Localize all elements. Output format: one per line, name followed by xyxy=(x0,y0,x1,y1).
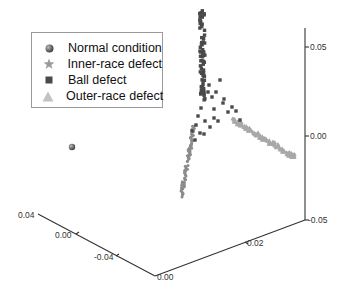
data-point xyxy=(202,68,205,71)
x-axis xyxy=(38,214,155,276)
data-point xyxy=(234,109,237,112)
data-point xyxy=(199,70,202,73)
data-point xyxy=(202,63,205,66)
data-point xyxy=(201,52,204,55)
legend-item-normal: Normal condition xyxy=(42,40,162,56)
data-point xyxy=(200,22,203,25)
data-point xyxy=(186,160,189,163)
data-point xyxy=(230,105,233,108)
data-point xyxy=(183,176,186,179)
data-point xyxy=(201,80,204,83)
origin-tick: 0.00 xyxy=(157,272,174,282)
data-point xyxy=(200,41,203,44)
data-point xyxy=(181,192,184,195)
data-point xyxy=(201,83,204,86)
x-tick-0.04: 0.04 xyxy=(18,210,35,220)
z-tick-neg0.05: -0.05 xyxy=(308,215,328,225)
series-inner-race-defect xyxy=(180,125,196,199)
data-point xyxy=(218,78,221,81)
data-point xyxy=(212,107,215,110)
y-axis xyxy=(155,220,305,276)
data-point xyxy=(202,132,205,135)
data-point xyxy=(183,185,186,188)
data-point xyxy=(199,106,202,109)
data-point xyxy=(203,119,206,122)
series-outer-race-defect xyxy=(230,117,296,160)
legend-label: Ball defect xyxy=(68,73,126,87)
data-point xyxy=(238,118,241,121)
data-point xyxy=(189,136,192,139)
legend-item-outer-race: Outer-race defect xyxy=(42,88,162,104)
x-tick-0.00: 0.00 xyxy=(55,230,72,240)
legend-label: Inner-race defect xyxy=(68,57,163,71)
triangle-icon xyxy=(42,89,54,103)
star-icon xyxy=(42,57,56,71)
legend-label: Outer-race defect xyxy=(66,89,163,103)
data-point xyxy=(208,125,211,128)
data-point xyxy=(188,151,191,154)
series-normal-condition xyxy=(69,144,75,150)
data-point xyxy=(190,142,193,145)
data-point xyxy=(198,12,201,15)
data-point xyxy=(199,92,202,95)
y-tick-0.02: 0.02 xyxy=(247,238,264,248)
data-point xyxy=(203,75,206,78)
data-point xyxy=(184,165,187,168)
data-point xyxy=(206,90,209,93)
data-point xyxy=(187,157,190,160)
sphere-icon xyxy=(42,41,56,55)
data-point xyxy=(180,188,183,191)
data-point xyxy=(201,86,204,89)
data-point xyxy=(203,29,206,32)
data-point xyxy=(194,123,197,126)
legend-label: Normal condition xyxy=(68,41,162,55)
data-point xyxy=(202,60,205,63)
data-point xyxy=(198,15,201,18)
data-point xyxy=(214,90,217,93)
data-point xyxy=(198,131,201,134)
data-point xyxy=(69,144,75,150)
data-point xyxy=(190,133,193,136)
x-tick-neg0.04: -0.04 xyxy=(94,252,114,262)
data-point xyxy=(221,101,224,104)
data-point xyxy=(203,97,206,100)
data-point xyxy=(198,19,201,22)
data-point xyxy=(181,180,184,183)
data-point xyxy=(184,169,187,172)
data-point xyxy=(222,97,225,100)
data-point xyxy=(202,94,205,97)
z-tick-0.05: 0.05 xyxy=(310,42,327,52)
square-icon xyxy=(42,73,56,87)
legend-item-inner-race: Inner-race defect xyxy=(42,56,162,72)
data-point xyxy=(196,114,199,117)
z-tick-0.00: 0.00 xyxy=(310,131,327,141)
data-point xyxy=(203,41,206,44)
data-point xyxy=(226,110,229,113)
data-point xyxy=(212,116,215,119)
data-point xyxy=(207,83,210,86)
data-point xyxy=(216,119,219,122)
data-point xyxy=(187,148,190,151)
data-point xyxy=(210,95,213,98)
legend-item-ball: Ball defect xyxy=(42,72,162,88)
data-point xyxy=(200,36,203,39)
chart-legend: Normal condition Inner-race defect Ball … xyxy=(31,32,163,108)
data-point xyxy=(187,164,190,167)
data-point xyxy=(193,138,196,141)
data-point xyxy=(190,129,193,132)
